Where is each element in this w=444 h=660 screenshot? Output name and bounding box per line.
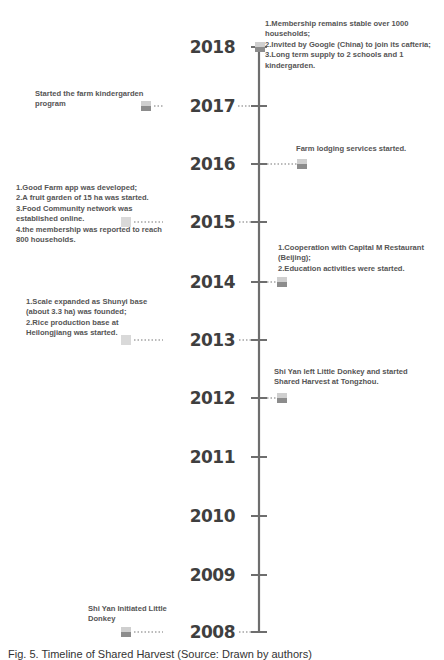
marker-bottom-2012-icon bbox=[277, 398, 287, 403]
marker-bottom-2014-icon bbox=[277, 282, 287, 287]
event-note-2018: 1.Membership remains stable over 1000 ho… bbox=[265, 19, 431, 71]
marker-top-2012-icon bbox=[277, 393, 287, 398]
event-note-2012: Shi Yan left Little Donkey and started S… bbox=[274, 367, 408, 388]
marker-bottom-2018-icon bbox=[255, 47, 265, 52]
marker-bottom-2008-icon bbox=[121, 632, 131, 637]
figure-caption: Fig. 5. Timeline of Shared Harvest (Sour… bbox=[8, 648, 312, 660]
marker-top-2008-icon bbox=[121, 627, 131, 632]
year-label-2010: 2010 bbox=[163, 506, 237, 526]
event-note-2008: Shi Yan Initiated Little Donkey bbox=[88, 604, 167, 625]
marker-top-2014-icon bbox=[277, 277, 287, 282]
year-label-2016: 2016 bbox=[163, 154, 237, 174]
event-note-2016: Farm lodging services started. bbox=[296, 144, 406, 154]
year-label-2014: 2014 bbox=[163, 272, 237, 292]
year-label-2012: 2012 bbox=[163, 388, 237, 408]
marker-top-2018-icon bbox=[255, 42, 265, 47]
marker-bottom-2016-icon bbox=[297, 164, 307, 169]
event-note-2014: 1.Cooperation with Capital M Restaurant … bbox=[278, 243, 424, 274]
year-label-2011: 2011 bbox=[163, 447, 237, 467]
marker-top-2016-icon bbox=[297, 159, 307, 164]
year-label-2013: 2013 bbox=[163, 330, 237, 350]
year-label-2017: 2017 bbox=[163, 96, 237, 116]
year-label-2009: 2009 bbox=[163, 565, 237, 585]
year-label-2018: 2018 bbox=[163, 37, 237, 57]
year-label-2015: 2015 bbox=[163, 212, 237, 232]
event-note-2013: 1.Scale expanded as Shunyi base (about 3… bbox=[26, 297, 147, 339]
year-label-2008: 2008 bbox=[163, 622, 237, 642]
event-note-2017: Started the farm kindergarden program bbox=[35, 89, 143, 110]
event-note-2015: 1.Good Farm app was developed; 2.A fruit… bbox=[16, 183, 162, 245]
